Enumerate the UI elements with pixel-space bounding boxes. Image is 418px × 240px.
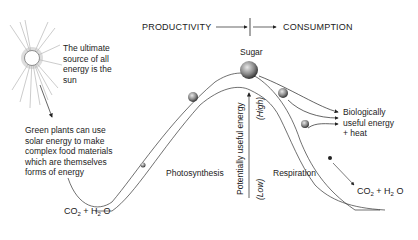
molecule-medium-icon [278, 88, 288, 98]
plants-note: Green plants can use solar energy to mak… [25, 125, 112, 178]
sun-note-line: The ultimate [63, 43, 112, 54]
sun-note-line: sun [63, 75, 112, 86]
bio-energy-line: useful energy [343, 118, 394, 129]
h-text: + H [374, 186, 391, 196]
energy-curve-outer [68, 73, 380, 210]
o-text: O [101, 206, 111, 216]
plants-note-line: forms of energy [25, 167, 112, 178]
energy-release-arrow [308, 124, 338, 128]
reactants-left: CO2 + H2 O [64, 206, 110, 217]
sun-icon [10, 20, 62, 108]
sugar-molecule-icon [240, 61, 258, 79]
sun-note-line: energy is the [63, 64, 112, 75]
products-right: CO2 + H2 O [357, 186, 403, 197]
respiration-label: Respiration [273, 168, 316, 179]
plants-note-line: which are themselves [25, 157, 112, 168]
to-products-arrow [333, 163, 354, 185]
sun-to-plants-arrow [40, 85, 52, 117]
o-text: O [394, 186, 404, 196]
sun-note: The ultimate source of all energy is the… [63, 43, 112, 85]
plants-note-line: complex food materials [25, 146, 112, 157]
molecule-small-icon [301, 120, 309, 128]
axis-low-label: (Low) [255, 179, 265, 200]
sugar-label: Sugar [240, 47, 263, 58]
photosynthesis-label: Photosynthesis [166, 168, 224, 179]
co-text: CO [357, 186, 371, 196]
axis-high-label: (High) [255, 97, 265, 120]
molecule-tiny-icon [328, 156, 332, 160]
sun-note-line: source of all [63, 54, 112, 65]
bio-energy-note: Biologically useful energy + heat [343, 107, 394, 139]
productivity-label: PRODUCTIVITY [142, 22, 211, 32]
molecule-medium-icon [188, 92, 198, 102]
energy-release-arrow [259, 76, 338, 112]
h-text: + H [81, 206, 98, 216]
co-text: CO [64, 206, 78, 216]
consumption-label: CONSUMPTION [283, 22, 353, 32]
axis-label: Potentially useful energy [235, 102, 245, 195]
plants-note-line: Green plants can use [25, 125, 112, 136]
energy-release-arrow [288, 100, 338, 118]
bio-energy-line: Biologically [343, 107, 394, 118]
bio-energy-line: + heat [343, 128, 394, 139]
plants-note-line: solar energy to make [25, 136, 112, 147]
molecule-small-icon [141, 163, 146, 168]
